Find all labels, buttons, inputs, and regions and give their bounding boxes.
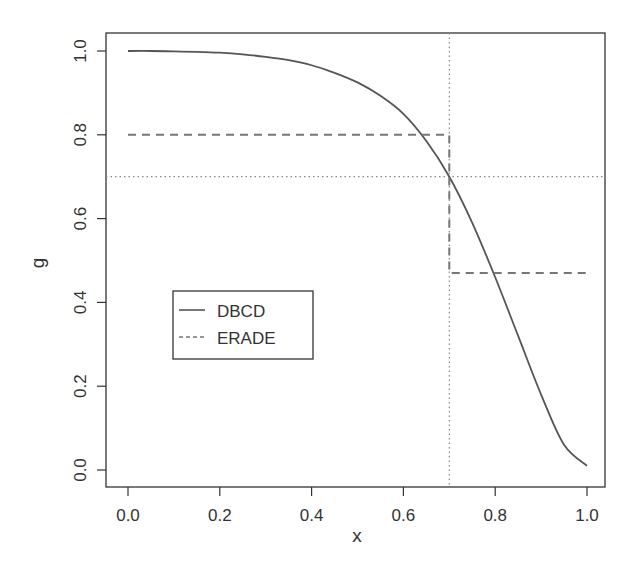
plot-frame <box>106 33 605 487</box>
series-line-dbcd <box>128 51 587 466</box>
x-tick-label: 0.4 <box>300 506 324 525</box>
series-line-erade <box>128 135 587 273</box>
line-chart: 0.00.20.40.60.81.00.00.20.40.60.81.0 x g… <box>0 0 636 574</box>
legend: DBCD ERADE <box>173 291 313 359</box>
y-tick-label: 1.0 <box>71 39 90 63</box>
x-tick-label: 0.2 <box>208 506 232 525</box>
x-tick-label: 0.0 <box>116 506 140 525</box>
y-tick-label: 0.4 <box>71 291 90 315</box>
y-tick-label: 0.0 <box>71 458 90 482</box>
reference-lines <box>106 33 605 487</box>
x-tick-label: 0.8 <box>483 506 507 525</box>
x-tick-label: 0.6 <box>392 506 416 525</box>
y-tick-label: 0.6 <box>71 207 90 231</box>
y-tick-label: 0.2 <box>71 374 90 398</box>
legend-label-erade: ERADE <box>217 329 276 348</box>
x-axis-label: x <box>352 525 362 546</box>
plot-border <box>106 33 605 487</box>
x-tick-label: 1.0 <box>575 506 599 525</box>
y-axis-label: g <box>27 258 48 269</box>
legend-label-dbcd: DBCD <box>217 302 265 321</box>
series-layer <box>128 51 587 466</box>
y-tick-label: 0.8 <box>71 123 90 147</box>
axes: 0.00.20.40.60.81.00.00.20.40.60.81.0 <box>71 39 599 525</box>
